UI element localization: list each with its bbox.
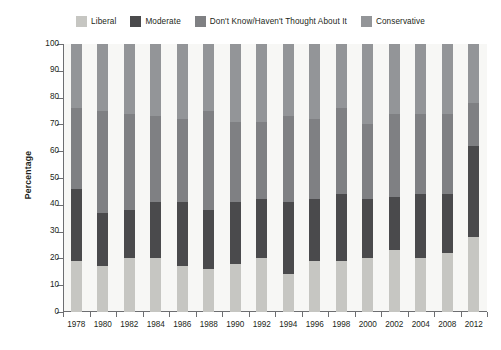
x-axis-tick-label: 1982 [120, 320, 138, 329]
bar-column[interactable] [309, 44, 320, 312]
legend-item[interactable]: Liberal [76, 16, 116, 27]
bar-column[interactable] [415, 44, 426, 312]
bar-column[interactable] [71, 44, 82, 312]
y-axis-title: Percentage [23, 151, 33, 199]
bar-segment[interactable] [309, 119, 320, 199]
bar-segment[interactable] [415, 194, 426, 258]
y-axis-line [63, 44, 64, 312]
bar-segment[interactable] [71, 44, 82, 108]
bar-segment[interactable] [71, 261, 82, 312]
bar-segment[interactable] [468, 237, 479, 312]
bar-segment[interactable] [389, 44, 400, 114]
bar-segment[interactable] [309, 199, 320, 261]
bar-segment[interactable] [442, 44, 453, 114]
bar-segment[interactable] [230, 202, 241, 264]
bar-segment[interactable] [415, 114, 426, 194]
bar-segment[interactable] [336, 261, 347, 312]
bar-segment[interactable] [336, 108, 347, 194]
bar-segment[interactable] [362, 124, 373, 199]
bar-segment[interactable] [415, 44, 426, 114]
bar-column[interactable] [336, 44, 347, 312]
bar-column[interactable] [230, 44, 241, 312]
bar-column[interactable] [124, 44, 135, 312]
bar-segment[interactable] [362, 199, 373, 258]
bar-column[interactable] [442, 44, 453, 312]
legend-item[interactable]: Moderate [130, 16, 180, 27]
bar-segment[interactable] [177, 202, 188, 266]
y-axis-tick-label: 0 [54, 307, 59, 316]
bar-column[interactable] [283, 44, 294, 312]
bar-segment[interactable] [203, 269, 214, 312]
bar-column[interactable] [203, 44, 214, 312]
bar-segment[interactable] [309, 44, 320, 119]
legend-item[interactable]: Conservative [361, 16, 425, 27]
bar-segment[interactable] [71, 108, 82, 188]
bar-segment[interactable] [203, 111, 214, 210]
bar-segment[interactable] [336, 44, 347, 108]
bar-segment[interactable] [283, 44, 294, 116]
x-axis-tick-mark [408, 312, 409, 317]
bar-segment[interactable] [124, 210, 135, 258]
x-axis-tick-label: 2008 [438, 320, 456, 329]
bar-segment[interactable] [97, 111, 108, 213]
bar-segment[interactable] [97, 213, 108, 267]
bar-segment[interactable] [203, 44, 214, 111]
x-axis-tick-label: 2004 [412, 320, 430, 329]
x-axis-tick-mark [302, 312, 303, 317]
bar-segment[interactable] [442, 114, 453, 194]
y-axis-tick-label: 50 [50, 173, 59, 182]
bar-segment[interactable] [71, 189, 82, 261]
bar-segment[interactable] [150, 258, 161, 312]
bar-segment[interactable] [468, 44, 479, 103]
bar-segment[interactable] [389, 250, 400, 312]
bar-segment[interactable] [230, 264, 241, 312]
bar-segment[interactable] [97, 44, 108, 111]
bar-segment[interactable] [283, 202, 294, 274]
bar-segment[interactable] [362, 258, 373, 312]
bar-segment[interactable] [97, 266, 108, 312]
bar-segment[interactable] [177, 44, 188, 119]
bar-column[interactable] [468, 44, 479, 312]
bar-segment[interactable] [362, 44, 373, 124]
x-axis-tick-mark [90, 312, 91, 317]
bar-segment[interactable] [256, 258, 267, 312]
bar-column[interactable] [150, 44, 161, 312]
bar-segment[interactable] [230, 44, 241, 122]
bar-segment[interactable] [283, 116, 294, 202]
bar-segment[interactable] [203, 210, 214, 269]
bar-segment[interactable] [468, 103, 479, 146]
bar-segment[interactable] [389, 197, 400, 251]
bar-segment[interactable] [256, 122, 267, 200]
bar-segment[interactable] [177, 119, 188, 202]
bar-segment[interactable] [150, 202, 161, 258]
bar-segment[interactable] [256, 44, 267, 122]
bar-segment[interactable] [468, 146, 479, 237]
x-axis-tick-mark [222, 312, 223, 317]
x-axis-tick-label: 1978 [67, 320, 85, 329]
bar-segment[interactable] [124, 114, 135, 210]
x-axis-tick-label: 1992 [253, 320, 271, 329]
bar-segment[interactable] [415, 258, 426, 312]
bar-column[interactable] [177, 44, 188, 312]
x-axis-tick-mark [381, 312, 382, 317]
legend-item[interactable]: Don't Know/Haven't Thought About It [195, 16, 347, 27]
x-axis-tick-label: 2012 [465, 320, 483, 329]
bar-segment[interactable] [442, 253, 453, 312]
bar-column[interactable] [389, 44, 400, 312]
bar-column[interactable] [362, 44, 373, 312]
bar-segment[interactable] [336, 194, 347, 261]
bar-segment[interactable] [124, 258, 135, 312]
x-axis-tick-label: 1990 [226, 320, 244, 329]
bar-segment[interactable] [150, 116, 161, 202]
bar-column[interactable] [97, 44, 108, 312]
bar-segment[interactable] [124, 44, 135, 114]
bar-segment[interactable] [389, 114, 400, 197]
bar-segment[interactable] [150, 44, 161, 116]
bar-column[interactable] [256, 44, 267, 312]
bar-segment[interactable] [256, 199, 267, 258]
bar-segment[interactable] [309, 261, 320, 312]
bar-segment[interactable] [177, 266, 188, 312]
bar-segment[interactable] [283, 274, 294, 312]
bar-segment[interactable] [442, 194, 453, 253]
bar-segment[interactable] [230, 122, 241, 202]
